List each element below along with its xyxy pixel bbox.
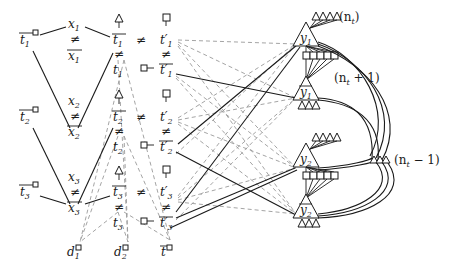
connector [310,141,337,149]
square-node-icon [310,52,317,59]
bottom-nodes: d1 d2 t [67,245,172,261]
small-triangle-icon [319,133,327,141]
square-node-icon [33,30,38,35]
label-t-3: t3 [113,216,123,232]
curve-y2-right [318,158,372,168]
dashed-edge [178,124,296,214]
square-node-icon [163,90,170,97]
label-x1: x1 [68,17,80,33]
neq-x3: ≠ [70,185,80,199]
dashed-edge [178,98,296,198]
dashed-edge [176,98,296,220]
prime-column: t′1≠t′1t′2≠t′2t′3≠t′3 [159,14,173,232]
y-gadgets: y1y1y2y2 [293,12,341,227]
dashed-edge [178,44,296,196]
square-node-icon [141,65,147,71]
edge-t1bar-x1 [40,27,66,35]
edge-t3-y2 [170,170,297,228]
reduction-gadget-diagram: y1y1y2y2 (nt − 1) (nt) (nt + 1) t1 x1 ≠ … [0,0,469,275]
small-triangle-icon [312,101,320,109]
label-tprime-3: t′3 [160,185,173,201]
small-triangle-icon [312,133,320,141]
square-node-icon [324,52,331,59]
square-node-icon [324,172,331,179]
middle-column: t1≠t1≠t2≠t2≠t3≠t3≠ [112,14,154,232]
small-triangle-icon [319,12,327,20]
dashed-edge [178,44,296,168]
dashed-edge [178,42,296,98]
annotation-right-triangles: (nt − 1) [394,153,440,169]
square-node-icon [163,166,170,173]
neq-horizontal: ≠ [136,110,146,124]
curves-to-right-triangles [318,42,394,218]
label-x3: x3 [68,170,80,186]
right-triangle-group [370,156,390,163]
neq-vertical: ≠ [161,200,171,214]
square-node-icon [76,245,81,250]
label-tprime-bar-3: t′3 [160,216,173,232]
neq-vertical: ≠ [114,47,124,61]
label-x2: x2 [68,94,80,110]
small-triangle-icon [298,101,306,109]
dashed-edge [178,44,296,118]
square-node-icon [33,107,38,112]
edge-x1-tbar1 [85,27,110,37]
dashed-edge [176,78,296,214]
triangle-node-icon [115,166,123,174]
small-triangle-icon [298,219,306,227]
neq-vertical: ≠ [114,124,124,138]
connector [306,59,320,80]
label-x1bar: x1 [68,49,80,65]
dashed-edge [178,98,296,120]
square-node-icon [303,172,310,179]
label-tprime-bar-2: t′2 [160,140,173,156]
square-node-icon [33,182,38,187]
connector [306,179,334,198]
curve-ybar1-right [318,98,372,160]
neq-x1: ≠ [70,32,80,46]
connector [310,20,337,28]
square-node-icon [163,14,170,21]
small-triangle-icon [326,12,334,20]
connector [306,59,334,80]
label-t3bar: t3 [20,185,30,201]
edge-tbar2-x3bar [78,128,113,204]
square-node-icon [331,172,338,179]
square-node-icon [141,218,147,224]
square-node-icon [123,245,128,250]
dashed-edge [124,136,128,242]
neq-vertical: ≠ [114,200,124,214]
label-t1bar: t1 [20,33,30,49]
neq-horizontal: ≠ [136,185,146,199]
annotation-top-triangles: (nt) [339,10,359,26]
neq-x2: ≠ [70,109,80,123]
triangle-node-icon [115,14,123,22]
small-triangle-icon [305,219,313,227]
edge-tpbar3-y2 [176,168,295,218]
dashed-edge [178,202,296,214]
small-triangle-icon [312,219,320,227]
square-node-icon [317,172,324,179]
label-tbar-bottom: t [161,245,166,259]
edge-tbar1-x2bar [78,53,113,128]
label-t-2: t2 [113,140,123,156]
edge-tpbar1-ybar1 [176,74,296,98]
dashed-edge [178,40,296,44]
small-triangle-icon [326,133,334,141]
label-tbar-3: t3 [113,185,123,201]
curve-ybar2-right-b [318,162,388,216]
small-triangle-icon [333,133,341,141]
edge-x3bar-tbar3 [85,196,110,204]
triangle-node-icon [115,90,123,98]
square-node-icon [303,52,310,59]
edge-t2bar-x3bar [33,128,70,204]
small-triangle-icon [305,101,313,109]
label-t2bar: t2 [20,110,30,126]
square-node-icon [310,172,317,179]
neq-vertical: ≠ [161,47,171,61]
edge-t3bar-x3bar [40,196,66,204]
neq-horizontal: ≠ [136,33,146,47]
annotation-squares: (nt + 1) [334,71,380,87]
square-node-icon [141,142,147,148]
square-node-icon [317,52,324,59]
